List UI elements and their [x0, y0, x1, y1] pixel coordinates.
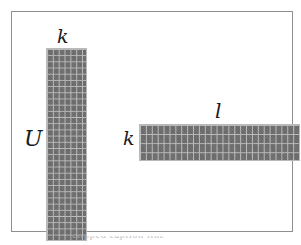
label-k-top: k [57, 27, 69, 46]
caption-strip: clipped caption line [0, 236, 301, 245]
matrix-block-u [46, 48, 87, 241]
figure-frame-border: k U l k [11, 11, 293, 232]
label-u-left: U [24, 128, 43, 150]
label-k-left: k [123, 129, 135, 148]
label-l-top: l [215, 101, 221, 121]
caption-text: clipped caption line [72, 236, 165, 240]
figure-canvas: k U l k clipped caption line [0, 0, 301, 245]
matrix-block-v [139, 124, 300, 161]
